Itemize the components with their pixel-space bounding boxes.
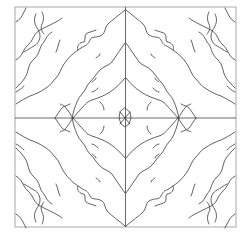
crack-line [189,18,235,60]
crack-line [73,118,125,158]
crack-line [16,10,125,104]
crack-line [41,12,44,34]
crack-line [155,186,174,206]
crack-line [55,104,70,118]
crack-line [60,104,73,118]
crack-pattern-figure [0,0,241,234]
crack-line [189,176,235,218]
crack-line [207,12,210,34]
crack-line [16,8,26,22]
crack-line [100,102,104,110]
crack-line [92,144,98,148]
crack-line [77,30,96,50]
crack-line [153,144,159,148]
quadrant-bottom-left [16,118,125,228]
crack-line [151,178,155,182]
crack-line [126,10,235,104]
quadrant-top-left [16,8,125,118]
crack-line [199,32,235,88]
crack-line [96,54,100,58]
crack-line [153,88,159,92]
crack-line [147,102,151,110]
crack-line [178,118,191,132]
crack-line [72,118,125,193]
crack-line [126,43,179,118]
crack-line [73,78,125,118]
crack-line [199,148,235,204]
crack-line [77,186,96,206]
crack-line [16,32,52,88]
crack-line [96,178,100,182]
crack-line [60,118,73,132]
crack-line [16,132,125,226]
crack-line [178,104,191,118]
crack-line [41,202,44,224]
crack-line [181,118,196,132]
crack-line [56,40,60,52]
crack-line [92,88,98,92]
crack-line [225,8,235,22]
crack-line [155,30,174,50]
crack-line [225,214,235,228]
crack-line [191,40,195,52]
crack-line [16,18,62,60]
crack-line [16,176,62,218]
crack-line [126,118,178,158]
crack-line [181,104,196,118]
crack-line [126,118,179,193]
crack-line [56,184,60,196]
quadrant-top-right [126,8,235,118]
crack-line [191,184,195,196]
center-hexagon [119,108,131,127]
quadrant-bottom-right [126,118,235,228]
crack-line [16,214,26,228]
crack-line [100,126,104,134]
crack-line [55,118,70,132]
crack-line [151,54,155,58]
crack-line [126,132,235,226]
crack-line [207,202,210,224]
crack-line [126,78,178,118]
crack-line [72,43,125,118]
crack-line [16,148,52,204]
crack-line [147,126,151,134]
